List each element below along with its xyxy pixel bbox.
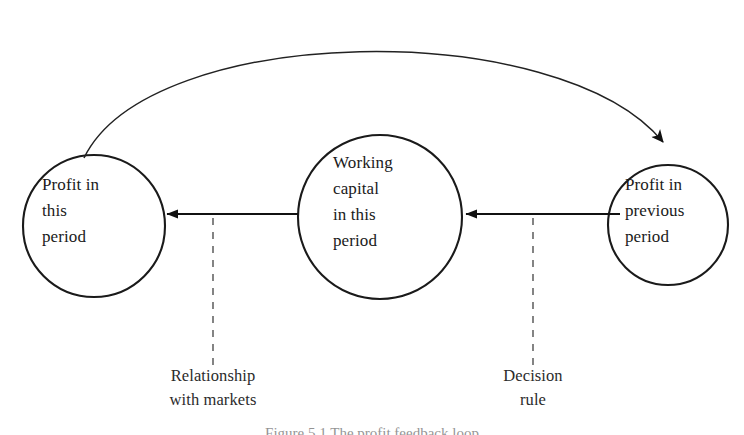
node-label-profit-previous-period: Profit in previous period (625, 172, 743, 250)
diagram-canvas: Profit in this period Working capital in… (0, 0, 744, 435)
figure-caption: Figure 5.1 The profit feedback loop (0, 424, 744, 435)
node-label-profit-this-period: Profit in this period (42, 172, 160, 250)
node-label-working-capital-this-period: Working capital in this period (333, 150, 458, 254)
annotation-label-relationship-with-markets: Relationship with markets (133, 364, 293, 412)
annotation-label-decision-rule: Decision rule (463, 364, 603, 412)
